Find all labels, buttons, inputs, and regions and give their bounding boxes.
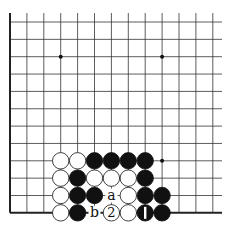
move-number-2: 2 <box>107 205 115 220</box>
black-stone <box>154 187 170 203</box>
black-stone <box>137 170 153 186</box>
white-stone <box>86 170 102 186</box>
star-point <box>160 55 164 59</box>
white-stone <box>53 187 69 203</box>
white-stone <box>120 187 136 203</box>
star-point <box>59 55 63 59</box>
black-stone <box>120 153 136 169</box>
white-stone <box>69 153 85 169</box>
point-label-a: a <box>107 187 115 203</box>
black-stone <box>69 205 85 221</box>
white-stone <box>53 153 69 169</box>
white-stone <box>103 170 119 186</box>
star-point <box>160 159 164 163</box>
white-stone <box>53 205 69 221</box>
white-stone <box>120 170 136 186</box>
black-stone <box>86 187 102 203</box>
go-board: 2ab <box>0 0 232 228</box>
white-stone <box>120 205 136 221</box>
black-stone <box>137 153 153 169</box>
black-stone <box>69 187 85 203</box>
black-stone <box>154 205 170 221</box>
white-stone <box>53 170 69 186</box>
black-stone <box>103 153 119 169</box>
black-stone <box>86 153 102 169</box>
black-stone <box>69 170 85 186</box>
black-stone <box>137 187 153 203</box>
point-label-b: b <box>90 204 99 220</box>
move-number-1 <box>144 207 146 219</box>
